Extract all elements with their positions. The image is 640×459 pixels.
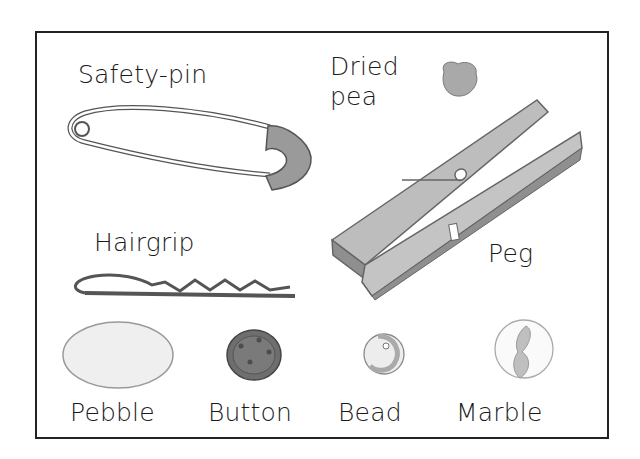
clothes-peg-icon [332, 100, 582, 300]
hairgrip-label: Hairgrip [94, 230, 195, 255]
button-icon [227, 330, 281, 380]
pebble-label: Pebble [70, 400, 155, 425]
dried-pea-label-line2: pea [330, 84, 377, 109]
marble-label: Marble [456, 400, 543, 425]
dried-pea-label-line1: Dried [330, 54, 399, 79]
dried-pea-icon [443, 62, 477, 96]
safety-pin-icon [70, 108, 311, 190]
button-label: Button [208, 400, 292, 425]
safety-pin-label: Safety-pin [78, 62, 207, 87]
peg-label: Peg [488, 241, 533, 266]
marble-icon [495, 320, 553, 378]
bead-icon [364, 334, 404, 374]
pebble-icon [63, 322, 173, 388]
hairgrip-icon [75, 275, 295, 296]
bead-label: Bead [338, 400, 402, 425]
